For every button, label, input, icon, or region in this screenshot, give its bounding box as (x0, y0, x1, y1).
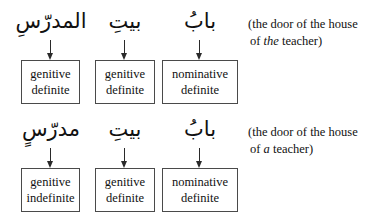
gloss-line-1: (the door of the house (248, 17, 358, 31)
arrow-down-icon (194, 148, 205, 168)
arrow-down-icon (194, 40, 205, 60)
arrow-down-icon (119, 40, 130, 60)
arabic-word: بيتِ (109, 112, 142, 146)
arabic-word: بابُ (184, 112, 216, 146)
gloss-line-2-after: teacher) (279, 34, 322, 48)
box-line-2: definite (106, 190, 144, 206)
label-box-2-2: genitive definite (95, 168, 155, 212)
box-line-2: definite (181, 82, 219, 98)
gloss-line-2-before: of (250, 34, 264, 48)
gloss-text-2: (the door of the house of a teacher) (248, 124, 376, 157)
box-line-1: genitive (105, 66, 145, 82)
arrow-down-icon (45, 148, 56, 168)
arrow-down-icon (45, 40, 56, 60)
arrow-down-icon (119, 148, 130, 168)
gloss-line-2: of the teacher) (248, 33, 376, 50)
arabic-word: مدرّسٍ (22, 112, 80, 146)
box-line-1: nominative (172, 66, 228, 82)
gloss-text-1: (the door of the house of the teacher) (248, 16, 376, 49)
gloss-line-2-after: teacher) (270, 142, 313, 156)
box-line-1: nominative (172, 174, 228, 190)
arabic-word: بابُ (184, 4, 216, 38)
gloss-line-2-emphasis: the (264, 34, 279, 48)
gloss-line-2: of a teacher) (248, 141, 376, 158)
grammar-diagram: المدرّسِ بيتِ بابُ genitive definite gen… (0, 0, 376, 223)
gloss-line-2-before: of (250, 142, 264, 156)
box-line-1: genitive (30, 174, 70, 190)
label-box-1-3: nominative definite (162, 60, 238, 104)
arabic-word: بيتِ (109, 4, 142, 38)
box-line-2: definite (31, 82, 69, 98)
label-box-2-3: nominative definite (162, 168, 238, 212)
box-line-1: genitive (30, 66, 70, 82)
label-box-2-1: genitive indefinite (21, 168, 80, 212)
box-line-2: definite (181, 190, 219, 206)
label-box-1-1: genitive definite (21, 60, 80, 104)
gloss-line-1: (the door of the house (248, 125, 358, 139)
box-line-1: genitive (105, 174, 145, 190)
label-box-1-2: genitive definite (95, 60, 155, 104)
box-line-2: definite (106, 82, 144, 98)
arabic-word: المدرّسِ (15, 4, 86, 38)
box-line-2: indefinite (27, 190, 75, 206)
